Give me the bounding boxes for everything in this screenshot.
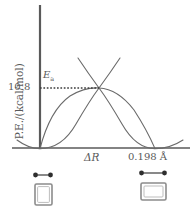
activation-energy-symbol: Ea <box>43 70 54 83</box>
reactant-potential-curve <box>17 58 120 149</box>
reactant-dumbbell-icon <box>33 173 53 178</box>
y-axis-label: P.E./(kcal/mol) <box>14 41 25 161</box>
potential-energy-figure: P.E./(kcal/mol) 10.8 Ea ΔR 0.198 Å <box>0 0 190 207</box>
activation-energy-subscript: a <box>50 75 54 83</box>
product-dumbbell-icon <box>139 171 167 176</box>
product-potential-curve <box>78 58 183 149</box>
x-axis-tick-label-delta-r: ΔR <box>84 152 100 163</box>
reactant-box-icon <box>35 184 52 205</box>
plot-canvas <box>0 0 190 207</box>
x-axis-tick-label-distance: 0.198 Å <box>128 152 167 162</box>
adiabatic-barrier-curve <box>40 88 155 149</box>
product-box-icon <box>141 183 166 200</box>
y-axis-tick-label: 10.8 <box>8 82 30 92</box>
